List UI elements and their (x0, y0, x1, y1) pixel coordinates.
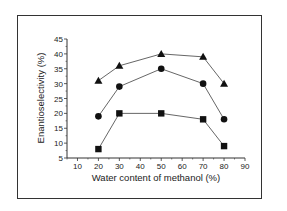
x-tick-label: 80 (220, 162, 229, 171)
x-tick-label: 60 (178, 162, 187, 171)
x-tick-label: 40 (136, 162, 145, 171)
y-axis-title: Enantioselectivity (%) (35, 53, 46, 144)
square-marker (95, 146, 101, 152)
data-series (94, 50, 228, 152)
y-tick-label: 10 (54, 139, 63, 148)
x-tick-label: 70 (199, 162, 208, 171)
triangle-marker (94, 77, 102, 84)
x-tick-label: 90 (241, 162, 250, 171)
x-axis-title: Water content of methanol (%) (92, 172, 220, 183)
y-tick-label: 35 (54, 65, 63, 74)
square-marker (116, 110, 122, 116)
circle-marker (116, 83, 123, 90)
circle-marker (221, 116, 228, 123)
y-tick-label: 5 (59, 154, 64, 163)
y-tick-label: 20 (54, 109, 63, 118)
triangle-marker (157, 50, 165, 57)
x-tick-label: 20 (94, 162, 103, 171)
x-tick-label: 30 (115, 162, 124, 171)
circle-marker (158, 65, 165, 72)
x-tick-label: 50 (157, 162, 166, 171)
circle-marker (200, 80, 207, 87)
x-tick-label: 10 (73, 162, 82, 171)
square-marker (158, 110, 164, 116)
y-tick-label: 30 (54, 80, 63, 89)
y-tick-label: 15 (54, 124, 63, 133)
axes: 10203040506070809051015202530354045 (54, 35, 250, 171)
square-series (95, 110, 227, 152)
line-chart: 10203040506070809051015202530354045 Wate… (0, 0, 287, 211)
y-tick-label: 45 (54, 35, 63, 44)
square-marker (200, 116, 206, 122)
y-tick-label: 40 (54, 50, 63, 59)
y-tick-label: 25 (54, 95, 63, 104)
circle-marker (95, 113, 102, 120)
square-marker (221, 143, 227, 149)
